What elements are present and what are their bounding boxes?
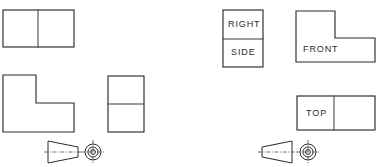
- left-side-view: [108, 76, 144, 132]
- technical-drawing-svg: [0, 0, 381, 167]
- first-angle-projection-symbol: [258, 140, 320, 164]
- label-right: RIGHT: [228, 20, 261, 29]
- label-front: FRONT: [303, 45, 339, 54]
- right-front-view-outline: [296, 11, 375, 62]
- left-top-view: [3, 10, 74, 47]
- drawing-canvas: RIGHT SIDE FRONT TOP: [0, 0, 381, 167]
- label-side: SIDE: [231, 48, 256, 57]
- label-top: TOP: [306, 109, 327, 118]
- left-front-view-outline: [3, 75, 74, 132]
- third-angle-projection-symbol: [44, 140, 105, 164]
- left-group: [3, 10, 144, 164]
- right-group: [223, 10, 375, 164]
